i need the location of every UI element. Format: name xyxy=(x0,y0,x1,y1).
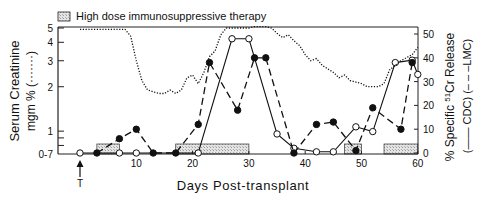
svg-text:5: 5 xyxy=(47,23,53,34)
series-line-cdc xyxy=(80,39,418,153)
filled-circle-marker xyxy=(398,126,404,132)
svg-text:40: 40 xyxy=(423,53,435,64)
legend-swatch xyxy=(58,12,70,21)
therapy-period-bar xyxy=(384,144,418,154)
legend: High dose immunosuppressive therapy xyxy=(58,10,267,22)
open-circle-marker xyxy=(246,36,252,42)
filled-circle-marker xyxy=(150,150,156,156)
svg-text:2: 2 xyxy=(47,82,53,93)
filled-circle-marker xyxy=(263,55,269,61)
x-axis-label: Days Post-transplant xyxy=(177,178,310,193)
open-circle-marker xyxy=(274,131,280,137)
filled-circle-marker xyxy=(353,147,359,153)
svg-text:50: 50 xyxy=(356,158,368,169)
svg-text:60: 60 xyxy=(412,158,424,169)
right-axis-label: % Specific 51Cr Release (—— CDC) (– – –L… xyxy=(443,33,473,162)
svg-text:3: 3 xyxy=(47,56,53,67)
svg-text:40: 40 xyxy=(300,158,312,169)
transplant-marker: T xyxy=(77,160,84,189)
filled-circle-marker xyxy=(291,150,297,156)
svg-text:0: 0 xyxy=(423,148,429,159)
svg-text:20: 20 xyxy=(187,158,199,169)
left-axis-label: Serum Creatinine mgm % (·······) xyxy=(7,40,38,141)
svg-text:10: 10 xyxy=(423,124,435,135)
open-circle-marker xyxy=(77,150,83,156)
filled-circle-marker xyxy=(116,136,122,142)
open-circle-marker xyxy=(195,150,201,156)
svg-text:Serum Creatinine: Serum Creatinine xyxy=(7,40,22,141)
open-circle-marker xyxy=(330,149,336,155)
svg-text:10: 10 xyxy=(131,158,143,169)
filled-circle-marker xyxy=(330,119,336,125)
chart: High dose immunosuppressive therapy 5432… xyxy=(0,0,480,199)
open-circle-marker xyxy=(353,124,359,130)
filled-circle-marker xyxy=(313,121,319,127)
svg-text:4: 4 xyxy=(47,37,53,48)
filled-circle-marker xyxy=(234,107,240,113)
filled-circle-marker xyxy=(133,126,139,132)
svg-text:mgm % (·······): mgm % (·······) xyxy=(24,51,38,131)
filled-circle-marker xyxy=(195,121,201,127)
filled-circle-marker xyxy=(173,150,179,156)
open-circle-marker xyxy=(116,150,122,156)
svg-text:0-7: 0-7 xyxy=(39,149,54,160)
filled-circle-marker xyxy=(251,55,257,61)
filled-circle-marker xyxy=(370,105,376,111)
open-circle-marker xyxy=(133,150,139,156)
series-line-lmc xyxy=(97,58,412,153)
right-ticks: 01020304050 xyxy=(414,29,435,159)
filled-circle-marker xyxy=(94,150,100,156)
svg-text:(—— CDC) (– – –LMC): (—— CDC) (– – –LMC) xyxy=(461,39,473,153)
filled-circle-marker xyxy=(409,59,415,65)
open-circle-marker xyxy=(415,71,421,77)
svg-text:% Specific 51Cr Release: % Specific 51Cr Release xyxy=(443,33,457,162)
svg-text:50: 50 xyxy=(423,29,435,40)
series-layer xyxy=(77,27,421,157)
svg-text:20: 20 xyxy=(423,100,435,111)
left-ticks: 543210-7 xyxy=(39,23,64,160)
open-circle-marker xyxy=(313,149,319,155)
arrow-up-icon xyxy=(77,160,84,167)
svg-text:30: 30 xyxy=(423,77,435,88)
open-circle-marker xyxy=(392,59,398,65)
svg-text:T: T xyxy=(77,178,83,189)
plot-area: 543210-7 01020304050 102030405060 xyxy=(39,23,435,169)
svg-text:30: 30 xyxy=(243,158,255,169)
open-circle-marker xyxy=(229,36,235,42)
open-circle-marker xyxy=(370,128,376,134)
legend-label: High dose immunosuppressive therapy xyxy=(76,10,267,22)
svg-text:1: 1 xyxy=(47,126,53,137)
